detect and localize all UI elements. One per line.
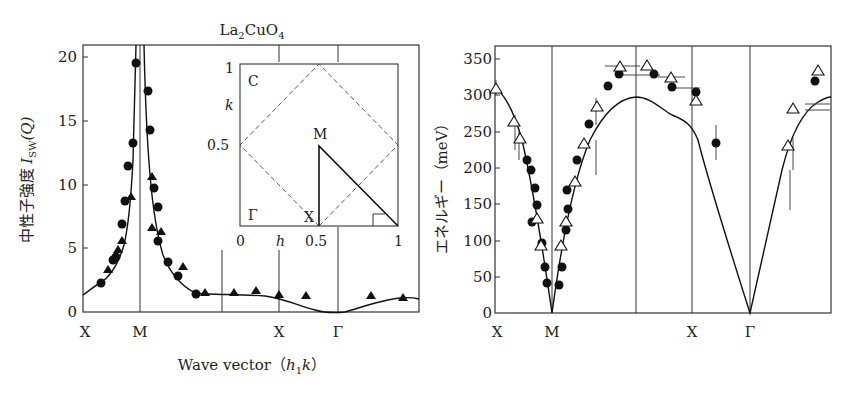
svg-text:0: 0 — [67, 303, 77, 321]
right-panel: 350 300 250 200 150 100 50 0 X M X Γ エネル… — [433, 46, 831, 341]
right-y-axis-title: エネルギー（meV） — [433, 116, 451, 255]
svg-text:0: 0 — [482, 304, 492, 322]
svg-text:15: 15 — [58, 112, 77, 130]
inset-label-X: X — [304, 209, 314, 225]
left-x-axis-title: Wave vector（h1k） — [178, 356, 326, 376]
svg-text:350: 350 — [463, 50, 492, 68]
right-circle-markers — [523, 70, 820, 290]
svg-text:M: M — [132, 323, 147, 341]
right-y-tick-labels: 350 300 250 200 150 100 50 0 — [463, 50, 492, 322]
inset-ylabel-k: k — [225, 97, 233, 113]
svg-text:Γ: Γ — [745, 323, 755, 341]
left-y-ticks — [83, 57, 88, 248]
inset-ytick-05: 0.5 — [207, 137, 229, 153]
inset-brillouin-zone: C M Γ X 1 k 0.5 0 h 0.5 1 — [207, 60, 403, 249]
svg-text:300: 300 — [463, 86, 492, 104]
inset-xlabel-h: h — [276, 233, 285, 249]
svg-text:X: X — [80, 323, 91, 341]
inset-label-M: M — [313, 126, 327, 142]
inset-xtick-05: 0.5 — [305, 233, 327, 249]
inset-label-C: C — [248, 73, 259, 89]
svg-text:M: M — [544, 323, 559, 341]
svg-text:50: 50 — [473, 268, 492, 286]
inset-xtick-1: 1 — [394, 233, 403, 249]
left-y-axis-title: 中性子強度 ISW(Q) — [18, 116, 38, 243]
svg-text:X: X — [492, 323, 503, 341]
svg-text:200: 200 — [463, 159, 492, 177]
svg-text:Γ: Γ — [333, 323, 343, 341]
left-y-tick-labels: 20 15 10 5 0 — [58, 48, 77, 321]
left-panel: 20 15 10 5 0 X M X Γ Wave vector（h1k） 中性… — [18, 45, 419, 376]
left-x-tick-labels: X M X Γ — [80, 323, 344, 341]
svg-text:X: X — [274, 323, 285, 341]
svg-text:20: 20 — [58, 48, 77, 66]
inset-label-gamma: Γ — [248, 207, 258, 223]
svg-text:150: 150 — [463, 195, 492, 213]
right-x-tick-labels: X M X Γ — [492, 323, 756, 341]
figure: La2CuO4 20 15 10 5 0 X M X Γ — [0, 0, 850, 393]
svg-text:X: X — [687, 323, 698, 341]
figure-title: La2CuO4 — [219, 21, 284, 41]
inset-ytick-1: 1 — [225, 60, 234, 76]
svg-text:250: 250 — [463, 123, 492, 141]
right-open-triangle-markers — [490, 60, 824, 250]
svg-text:100: 100 — [463, 232, 492, 250]
inset-xtick-0: 0 — [236, 233, 245, 249]
svg-text:10: 10 — [58, 176, 77, 194]
right-error-bars — [496, 66, 830, 210]
svg-text:5: 5 — [67, 239, 77, 257]
